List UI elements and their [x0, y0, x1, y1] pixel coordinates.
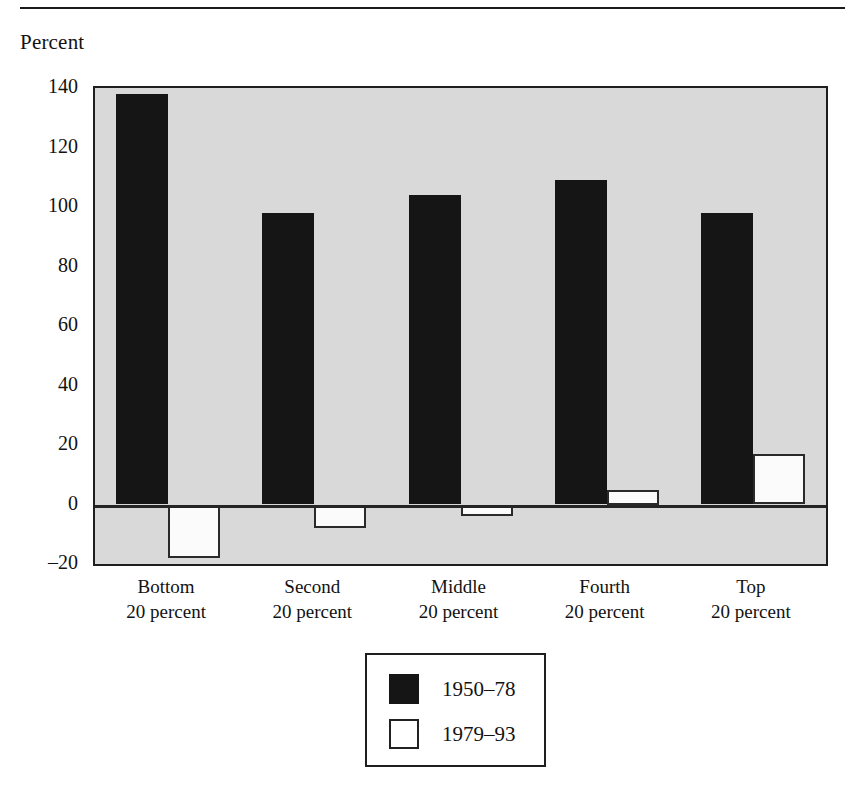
- x-axis-tick-label: Middle20 percent: [385, 574, 531, 624]
- bar: [168, 505, 220, 559]
- x-axis-tick-label-line: Fourth: [532, 574, 678, 599]
- x-axis-tick-label-line: 20 percent: [239, 599, 385, 624]
- bar: [607, 490, 659, 505]
- bar: [701, 213, 753, 505]
- y-axis-tick-label: 120: [48, 136, 78, 156]
- bar: [262, 213, 314, 505]
- y-axis-tick-labels: 140120100806040200–20: [0, 0, 78, 811]
- x-axis-tick-label-line: Bottom: [93, 574, 239, 599]
- x-axis-tick-label-line: 20 percent: [678, 599, 824, 624]
- y-axis-tick-label: 20: [58, 433, 78, 453]
- y-axis-tick-label: 60: [58, 314, 78, 334]
- legend-swatch-series-b: [389, 719, 419, 749]
- legend-label-series-b: 1979–93: [442, 724, 516, 745]
- y-axis-tick-label: 140: [48, 76, 78, 96]
- bar: [753, 454, 805, 505]
- bar: [555, 180, 607, 504]
- plot-inner: [95, 88, 826, 564]
- x-axis-tick-label-line: 20 percent: [532, 599, 678, 624]
- x-axis-tick-label: Top20 percent: [678, 574, 824, 624]
- chart-legend: 1950–78 1979–93: [365, 653, 546, 767]
- legend-label-series-a: 1950–78: [442, 679, 516, 700]
- zero-baseline: [95, 505, 826, 508]
- x-axis-tick-label: Second20 percent: [239, 574, 385, 624]
- x-axis-tick-label-line: 20 percent: [385, 599, 531, 624]
- top-rule-divider: [20, 7, 845, 9]
- x-axis-tick-label: Fourth20 percent: [532, 574, 678, 624]
- y-axis-tick-label: 100: [48, 195, 78, 215]
- bar: [314, 505, 366, 529]
- legend-entry: 1950–78: [389, 669, 516, 709]
- y-axis-tick-label: –20: [48, 552, 78, 572]
- y-axis-tick-label: 0: [68, 493, 78, 513]
- chart-figure: Percent 140120100806040200–20 Bottom20 p…: [0, 0, 865, 811]
- legend-entry: 1979–93: [389, 714, 516, 754]
- x-axis-tick-label-line: Top: [678, 574, 824, 599]
- x-axis-tick-label-line: 20 percent: [93, 599, 239, 624]
- y-axis-tick-label: 40: [58, 374, 78, 394]
- x-axis-category-labels: Bottom20 percentSecond20 percentMiddle20…: [93, 574, 828, 634]
- plot-area: [93, 86, 828, 566]
- bar: [116, 94, 168, 505]
- y-axis-tick-label: 80: [58, 255, 78, 275]
- x-axis-tick-label-line: Second: [239, 574, 385, 599]
- bar: [409, 195, 461, 504]
- legend-swatch-series-a: [389, 674, 419, 704]
- x-axis-tick-label-line: Middle: [385, 574, 531, 599]
- x-axis-tick-label: Bottom20 percent: [93, 574, 239, 624]
